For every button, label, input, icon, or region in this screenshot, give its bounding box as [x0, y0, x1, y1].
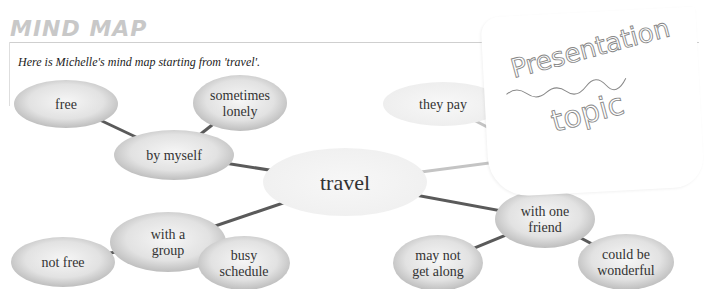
node-may-not-get-along: may notget along: [393, 235, 483, 289]
node-not-free: not free: [11, 237, 115, 287]
node-with-one-friend: with onefriend: [495, 190, 595, 248]
node-label: with one: [521, 204, 570, 219]
node-label: free: [55, 97, 77, 112]
node-label: they pay: [419, 97, 467, 112]
node-label: busy: [231, 248, 257, 263]
node-label: get along: [412, 264, 464, 279]
node-label: wonderful: [597, 263, 655, 278]
node-label: friend: [528, 220, 561, 235]
node-label: may not: [415, 248, 461, 263]
node-travel: travel: [263, 148, 427, 216]
node-label: by myself: [146, 148, 202, 163]
sticky-note: Presentation topic: [480, 6, 704, 197]
node-free: free: [14, 80, 118, 128]
sticky-line-1: Presentation: [507, 13, 672, 84]
node-label: schedule: [220, 264, 269, 279]
node-by-myself: by myself: [114, 130, 234, 180]
sticky-line-2: topic: [547, 86, 628, 139]
handwriting: Presentation topic: [480, 6, 704, 197]
node-sometimes-lonely: sometimeslonely: [193, 75, 287, 131]
node-label: not free: [41, 255, 84, 270]
node-label: with a: [151, 227, 186, 242]
node-label: could be: [602, 247, 650, 262]
node-label: group: [152, 243, 185, 258]
node-label: sometimes: [210, 88, 270, 103]
node-could-be-wonderful: could bewonderful: [578, 234, 674, 289]
node-busy-schedule: busyschedule: [198, 236, 290, 289]
node-label: lonely: [223, 104, 258, 119]
node-label: travel: [320, 170, 370, 195]
